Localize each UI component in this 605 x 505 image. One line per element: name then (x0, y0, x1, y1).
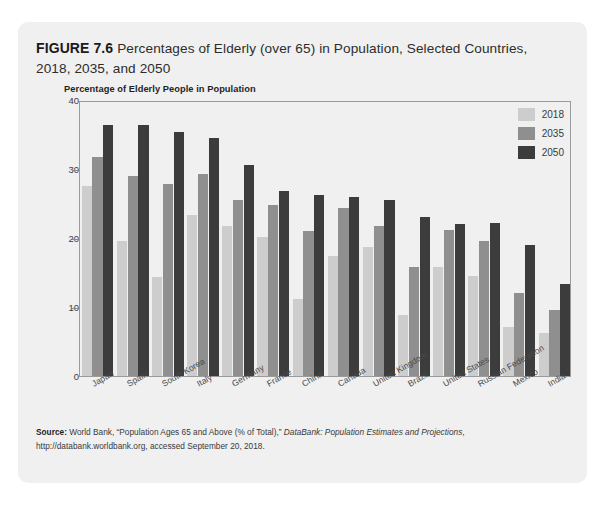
bar-2035 (444, 230, 454, 376)
bar-2018 (363, 247, 373, 376)
bar-2035 (92, 157, 102, 376)
legend-item: 2035 (518, 127, 564, 140)
bar-2018 (328, 256, 338, 376)
page-title: FIGURE 7.6 Percentages of Elderly (over … (36, 38, 556, 79)
bar-group (115, 102, 150, 376)
y-tick-mark (72, 308, 78, 309)
y-tick-mark (72, 239, 78, 240)
y-tick-mark (72, 170, 78, 171)
y-tick-label: 40 (45, 95, 79, 106)
chart-legend: 201820352050 (518, 108, 564, 159)
legend-label: 2018 (542, 109, 564, 120)
bar-2035 (374, 226, 384, 376)
bar-group (467, 102, 502, 376)
bar-group (256, 102, 291, 376)
source-note: Source: World Bank, “Population Ages 65 … (36, 426, 566, 453)
bar-2050 (209, 138, 219, 376)
legend-item: 2018 (518, 108, 564, 121)
legend-item: 2050 (518, 146, 564, 159)
bar-2050 (455, 224, 465, 376)
y-axis: 010203040 (36, 101, 79, 377)
bar-2035 (198, 174, 208, 376)
bar-2018 (539, 333, 549, 376)
bar-group (221, 102, 256, 376)
chart-subtitle: Percentage of Elderly People in Populati… (64, 84, 256, 94)
bars-layer (80, 102, 570, 376)
bar-2035 (549, 310, 559, 376)
bar-2018 (222, 226, 232, 376)
bar-group (80, 102, 115, 376)
bar-2035 (163, 184, 173, 376)
legend-label: 2050 (542, 147, 564, 158)
bar-2035 (233, 200, 243, 376)
bar-2050 (244, 165, 254, 376)
bar-group (326, 102, 361, 376)
bar-group (361, 102, 396, 376)
bar-2050 (384, 200, 394, 376)
bar-2050 (314, 195, 324, 376)
legend-swatch (518, 146, 535, 159)
bar-group (291, 102, 326, 376)
bar-group (396, 102, 431, 376)
bar-2018 (187, 215, 197, 376)
figure-number: FIGURE 7.6 (36, 40, 113, 56)
bar-2050 (138, 125, 148, 376)
legend-swatch (518, 108, 535, 121)
source-text-1: World Bank, “Population Ages 65 and Abov… (67, 427, 284, 437)
bar-group (431, 102, 466, 376)
bar-2050 (174, 132, 184, 376)
legend-label: 2035 (542, 128, 564, 139)
bar-2050 (349, 197, 359, 376)
bar-2018 (293, 299, 303, 376)
legend-swatch (518, 127, 535, 140)
bar-2018 (433, 267, 443, 376)
bar-2035 (128, 176, 138, 376)
chart-container: Percentage of Elderly People in Populati… (36, 84, 572, 414)
source-label: Source: (36, 427, 67, 437)
bar-2018 (117, 241, 127, 376)
bar-2050 (279, 191, 289, 376)
bar-group (185, 102, 220, 376)
bar-2035 (338, 208, 348, 376)
source-italic-1: DataBank: Population Estimates and Proje… (284, 427, 462, 437)
bar-2035 (303, 231, 313, 376)
plot-area: 201820352050 (79, 101, 571, 377)
bar-group (150, 102, 185, 376)
y-tick-label: 0 (45, 371, 79, 382)
figure-panel: FIGURE 7.6 Percentages of Elderly (over … (18, 22, 587, 483)
bar-2018 (82, 186, 92, 376)
bar-2050 (560, 284, 570, 376)
bar-2050 (103, 125, 113, 376)
bar-2035 (268, 205, 278, 376)
bar-2018 (257, 237, 267, 376)
bar-2018 (152, 277, 162, 376)
bar-2050 (490, 223, 500, 376)
